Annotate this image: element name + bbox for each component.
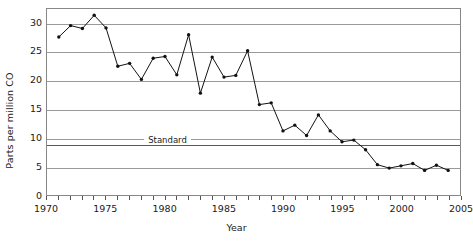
x-tick-1971 bbox=[58, 196, 59, 200]
data-point bbox=[293, 123, 296, 126]
x-tick-2001 bbox=[414, 196, 415, 200]
x-tick-1993 bbox=[319, 196, 320, 200]
x-tick-1972 bbox=[70, 196, 71, 200]
x-tick-label-1995: 1995 bbox=[330, 203, 354, 214]
x-tick-1973 bbox=[82, 196, 83, 200]
x-tick-1992 bbox=[307, 196, 308, 200]
data-point bbox=[352, 138, 355, 141]
x-tick-label-2005: 2005 bbox=[449, 203, 473, 214]
series-polyline bbox=[59, 15, 448, 170]
data-point bbox=[199, 91, 202, 94]
y-tick-label-0: 0 bbox=[2, 191, 42, 201]
data-point bbox=[447, 169, 450, 172]
x-tick-1974 bbox=[93, 196, 94, 200]
x-tick-1988 bbox=[259, 196, 260, 200]
data-point bbox=[152, 57, 155, 60]
x-tick-1975 bbox=[105, 196, 106, 200]
data-point bbox=[81, 27, 84, 30]
x-tick-label-1980: 1980 bbox=[153, 203, 177, 214]
data-point bbox=[175, 73, 178, 76]
y-tick-label-5: 5 bbox=[2, 162, 42, 172]
y-tick-label-30: 30 bbox=[2, 18, 42, 28]
x-tick-1980 bbox=[165, 196, 166, 200]
data-point bbox=[376, 163, 379, 166]
x-tick-1978 bbox=[141, 196, 142, 200]
data-point bbox=[222, 75, 225, 78]
y-tick-label-20: 20 bbox=[2, 75, 42, 85]
x-tick-2002 bbox=[425, 196, 426, 200]
y-tick-label-25: 25 bbox=[2, 46, 42, 56]
data-point bbox=[423, 169, 426, 172]
data-point bbox=[128, 62, 131, 65]
x-tick-1996 bbox=[354, 196, 355, 200]
data-point bbox=[140, 78, 143, 81]
x-tick-2003 bbox=[437, 196, 438, 200]
x-tick-2005 bbox=[461, 196, 462, 200]
x-tick-label-1990: 1990 bbox=[271, 203, 295, 214]
x-tick-1986 bbox=[236, 196, 237, 200]
y-axis-tick-labels: 051015202530 bbox=[0, 8, 42, 196]
x-tick-1976 bbox=[117, 196, 118, 200]
data-point bbox=[435, 164, 438, 167]
x-tick-1984 bbox=[212, 196, 213, 200]
x-tick-1997 bbox=[366, 196, 367, 200]
x-tick-1990 bbox=[283, 196, 284, 200]
data-point bbox=[69, 24, 72, 27]
x-tick-1995 bbox=[342, 196, 343, 200]
y-tick-label-15: 15 bbox=[2, 104, 42, 114]
x-tick-label-1985: 1985 bbox=[212, 203, 236, 214]
data-point bbox=[411, 162, 414, 165]
y-tick-label-10: 10 bbox=[2, 133, 42, 143]
x-tick-1982 bbox=[188, 196, 189, 200]
x-tick-2004 bbox=[449, 196, 450, 200]
x-tick-1987 bbox=[248, 196, 249, 200]
data-point bbox=[187, 33, 190, 36]
x-tick-1970 bbox=[46, 196, 47, 200]
x-tick-label-1975: 1975 bbox=[93, 203, 117, 214]
data-point bbox=[340, 140, 343, 143]
data-point bbox=[246, 49, 249, 52]
data-point bbox=[270, 101, 273, 104]
x-tick-1981 bbox=[176, 196, 177, 200]
data-point bbox=[104, 26, 107, 29]
x-tick-label-1970: 1970 bbox=[34, 203, 58, 214]
data-point bbox=[93, 14, 96, 17]
data-point bbox=[116, 65, 119, 68]
x-tick-1983 bbox=[200, 196, 201, 200]
x-tick-1994 bbox=[331, 196, 332, 200]
x-tick-1985 bbox=[224, 196, 225, 200]
x-tick-1977 bbox=[129, 196, 130, 200]
x-axis-tick-marks bbox=[46, 196, 461, 202]
x-tick-1989 bbox=[271, 196, 272, 200]
data-point bbox=[258, 103, 261, 106]
data-point bbox=[234, 74, 237, 77]
x-tick-1999 bbox=[390, 196, 391, 200]
x-tick-label-2000: 2000 bbox=[390, 203, 414, 214]
co-trend-chart: Parts per million CO 051015202530 Standa… bbox=[0, 0, 473, 241]
data-point bbox=[57, 35, 60, 38]
plot-area: Standard bbox=[46, 8, 461, 196]
x-tick-1991 bbox=[295, 196, 296, 200]
x-tick-1998 bbox=[378, 196, 379, 200]
data-point bbox=[364, 148, 367, 151]
data-series-line bbox=[47, 9, 460, 195]
x-tick-2000 bbox=[402, 196, 403, 200]
data-point bbox=[388, 166, 391, 169]
x-axis-title: Year bbox=[0, 222, 473, 233]
data-point bbox=[329, 129, 332, 132]
data-point bbox=[305, 134, 308, 137]
data-point bbox=[163, 55, 166, 58]
data-point bbox=[281, 129, 284, 132]
x-tick-1979 bbox=[153, 196, 154, 200]
data-point bbox=[399, 164, 402, 167]
data-point bbox=[211, 55, 214, 58]
data-point bbox=[317, 113, 320, 116]
